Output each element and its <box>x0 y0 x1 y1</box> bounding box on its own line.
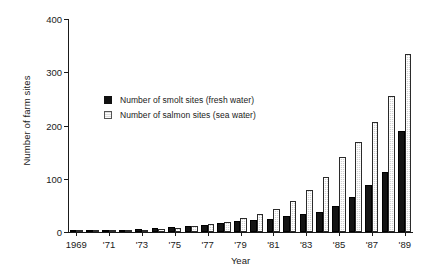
x-tick-mark <box>372 232 373 236</box>
x-tick-mark <box>208 232 209 236</box>
bar-group <box>134 19 150 232</box>
y-tick-label: 400 <box>46 14 62 25</box>
bar-group <box>249 19 265 232</box>
x-tick-mark <box>339 232 340 236</box>
chart-figure: Number of farm sites 0100200300400 1969'… <box>0 0 421 276</box>
legend-label-smolt: Number of smolt sites (fresh water) <box>120 95 254 105</box>
bar-group <box>331 19 347 232</box>
bar-group <box>84 19 100 232</box>
x-tick-mark <box>109 232 110 236</box>
y-tick-label: 300 <box>46 67 62 78</box>
x-tick-mark <box>306 232 307 236</box>
bar-salmon <box>355 142 362 232</box>
x-tick-label: '85 <box>333 239 345 250</box>
bar-group <box>216 19 232 232</box>
x-tick-label: '83 <box>300 239 312 250</box>
bar-salmon <box>125 230 132 232</box>
bar-group <box>314 19 330 232</box>
bar-salmon <box>372 122 379 232</box>
y-tick-mark <box>64 232 68 233</box>
legend-swatch-salmon-icon <box>104 111 112 119</box>
plot-area: 0100200300400 1969'71'73'75'77'79'81'83'… <box>68 19 413 232</box>
y-tick-label: 0 <box>57 227 62 238</box>
bar-group <box>347 19 363 232</box>
legend-swatch-smolt-icon <box>104 96 112 104</box>
bar-group <box>117 19 133 232</box>
bar-salmon <box>208 224 215 232</box>
bar-group <box>364 19 380 232</box>
bar-salmon <box>257 214 264 232</box>
bar-salmon <box>388 96 395 232</box>
bar-group <box>150 19 166 232</box>
bar-salmon <box>273 209 280 232</box>
x-tick-mark <box>142 232 143 236</box>
bar-salmon <box>142 230 149 232</box>
bar-salmon <box>240 218 247 232</box>
bar-salmon <box>175 228 182 232</box>
bar-salmon <box>191 226 198 232</box>
legend-label-salmon: Number of salmon sites (sea water) <box>120 110 256 120</box>
x-axis-title: Year <box>68 255 413 266</box>
y-axis-title: Number of farm sites <box>21 41 32 201</box>
x-tick-mark <box>175 232 176 236</box>
bar-salmon <box>76 230 83 232</box>
bar-group <box>380 19 396 232</box>
x-tick-mark <box>241 232 242 236</box>
y-tick-label: 200 <box>46 120 62 131</box>
bar-group <box>298 19 314 232</box>
x-tick-mark <box>76 232 77 236</box>
bar-salmon <box>93 230 100 232</box>
x-tick-label: '79 <box>234 239 246 250</box>
bar-salmon <box>306 190 313 232</box>
bar-salmon <box>323 177 330 232</box>
bar-salmon <box>405 54 412 232</box>
x-tick-label: '75 <box>169 239 181 250</box>
bar-group <box>199 19 215 232</box>
x-tick-label: '89 <box>399 239 411 250</box>
bar-group <box>282 19 298 232</box>
x-tick-label: '71 <box>103 239 115 250</box>
bar-salmon <box>339 157 346 232</box>
legend-item-smolt: Number of smolt sites (fresh water) <box>104 93 256 106</box>
legend-item-salmon: Number of salmon sites (sea water) <box>104 108 256 121</box>
chart-legend: Number of smolt sites (fresh water) Numb… <box>104 93 256 123</box>
bar-salmon <box>158 229 165 232</box>
bar-group <box>101 19 117 232</box>
x-tick-label: '87 <box>366 239 378 250</box>
x-tick-label: 1969 <box>66 239 87 250</box>
bar-salmon <box>109 230 116 232</box>
bar-group <box>232 19 248 232</box>
bar-group <box>397 19 413 232</box>
y-tick-label: 100 <box>46 173 62 184</box>
bar-group <box>68 19 84 232</box>
x-tick-label: '73 <box>136 239 148 250</box>
x-tick-label: '77 <box>201 239 213 250</box>
bar-group <box>183 19 199 232</box>
x-tick-mark <box>273 232 274 236</box>
bar-salmon <box>290 201 297 232</box>
bar-salmon <box>224 222 231 232</box>
x-tick-mark <box>405 232 406 236</box>
bar-group <box>167 19 183 232</box>
bar-group <box>265 19 281 232</box>
x-tick-label: '81 <box>267 239 279 250</box>
